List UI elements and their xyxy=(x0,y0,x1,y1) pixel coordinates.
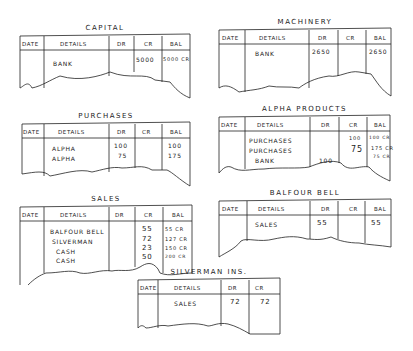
row-bal: 100 CR xyxy=(369,135,390,140)
col-bal: BAL xyxy=(374,122,386,128)
col-details: DETAILS xyxy=(259,35,286,41)
row-cr: 23 xyxy=(142,244,153,252)
col-dr: DR xyxy=(321,206,330,212)
ledger-title: CAPITAL xyxy=(20,24,190,32)
row-details: PURCHASES xyxy=(249,137,292,144)
row-bal: 75 CR xyxy=(373,154,390,159)
col-bal: BAL xyxy=(170,129,182,135)
row-details: ALPHA xyxy=(52,155,76,162)
ledger-title: BALFOUR BELL xyxy=(219,189,391,197)
col-dr: DR xyxy=(321,122,330,128)
col-date: DATE xyxy=(140,285,157,291)
row-details: BANK xyxy=(255,157,275,164)
row-bal: 5000 CR xyxy=(163,56,190,62)
col-date: DATE xyxy=(23,129,40,135)
row-bal: 200 CR xyxy=(165,254,186,259)
col-dr: DR xyxy=(117,129,126,135)
col-bal: BAL xyxy=(170,41,182,47)
row-dr: 100 xyxy=(319,157,333,164)
row-details: BALFOUR BELL xyxy=(50,228,104,235)
col-dr: DR xyxy=(117,41,126,47)
ledger-frame xyxy=(219,201,391,257)
row-details: BANK xyxy=(53,60,73,67)
col-cr: CR xyxy=(144,41,153,47)
row-bal: 150 CR xyxy=(165,245,188,251)
col-dr: DR xyxy=(318,35,327,41)
ledger-machinery: MACHINERY DATE DETAILS DR CR BAL BANK 26… xyxy=(219,30,391,96)
row-dr: 100 xyxy=(114,142,128,149)
ledger-title: SALES xyxy=(20,195,192,203)
row-cr: 72 xyxy=(142,235,153,243)
row-details: SALES xyxy=(255,221,278,228)
col-details: DETAILS xyxy=(258,206,285,212)
row-dr: 75 xyxy=(118,152,127,159)
ledger-title: MACHINERY xyxy=(219,18,391,26)
row-bal: 2650 xyxy=(369,48,387,55)
row-cr: 50 xyxy=(142,253,153,261)
ledger-alpha-products: ALPHA PRODUCTS DATE DETAILS DR CR BAL PU… xyxy=(219,117,390,183)
row-bal: 100 xyxy=(168,142,182,149)
row-bal: 55 xyxy=(371,219,382,227)
col-details: DETAILS xyxy=(58,129,85,135)
row-details: SALES xyxy=(174,300,197,307)
ledger-silverman-ins: SILVERMAN INS. DATE DETAILS DR CR SALES … xyxy=(138,280,280,334)
row-details: PURCHASES xyxy=(249,147,292,154)
ledger-title: SILVERMAN INS. xyxy=(138,268,280,276)
ledger-frame xyxy=(219,117,390,183)
row-details: CASH xyxy=(56,248,76,255)
col-cr: CR xyxy=(346,35,355,41)
row-bal: 127 CR xyxy=(165,236,188,242)
row-details: CASH xyxy=(56,257,76,264)
col-bal: BAL xyxy=(172,212,184,218)
col-details: DETAILS xyxy=(60,41,87,47)
col-bal: BAL xyxy=(374,206,386,212)
col-date: DATE xyxy=(221,122,238,128)
row-bal: 72 xyxy=(260,298,271,306)
col-cr: CR xyxy=(349,122,358,128)
col-details: DETAILS xyxy=(60,212,87,218)
ledger-title: ALPHA PRODUCTS xyxy=(219,105,390,113)
row-details: BANK xyxy=(255,50,275,57)
ledger-title: PURCHASES xyxy=(22,112,190,120)
col-cr: CR xyxy=(255,285,264,291)
ledger-frame xyxy=(219,30,391,96)
col-dr: DR xyxy=(228,285,237,291)
row-details: ALPHA xyxy=(52,145,76,152)
row-cr: 100 xyxy=(349,135,361,141)
row-bal: 175 CR xyxy=(371,145,394,151)
row-bal: 55 CR xyxy=(165,226,184,232)
col-date: DATE xyxy=(22,212,39,218)
col-date: DATE xyxy=(222,206,239,212)
col-cr: CR xyxy=(349,206,358,212)
row-cr: 5000 xyxy=(136,56,154,63)
row-dr: 55 xyxy=(317,219,328,227)
row-bal: 175 xyxy=(168,152,182,159)
ledger-balfour-bell: BALFOUR BELL DATE DETAILS DR CR BAL SALE… xyxy=(219,201,391,257)
row-details: SILVERMAN xyxy=(52,238,93,245)
ledger-frame xyxy=(22,124,190,186)
col-bal: BAL xyxy=(374,35,386,41)
col-details: DETAILS xyxy=(174,285,201,291)
col-dr: DR xyxy=(115,212,124,218)
ledger-purchases: PURCHASES DATE DETAILS DR CR BAL ALPHA A… xyxy=(22,124,190,186)
row-dr: 2650 xyxy=(312,48,330,55)
ledger-capital: CAPITAL DATE DETAILS DR CR BAL BANK 5000… xyxy=(20,36,190,98)
col-date: DATE xyxy=(222,35,239,41)
col-date: DATE xyxy=(22,41,39,47)
col-cr: CR xyxy=(142,129,151,135)
row-cr: 75 xyxy=(351,145,363,154)
ledger-frame xyxy=(20,36,190,98)
col-cr: CR xyxy=(144,212,153,218)
row-dr: 72 xyxy=(230,298,241,306)
col-details: DETAILS xyxy=(257,122,284,128)
row-cr: 55 xyxy=(142,225,153,233)
